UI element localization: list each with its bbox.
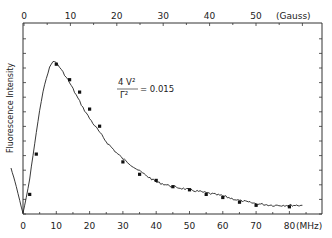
data-point <box>88 108 91 111</box>
data-point <box>138 173 141 176</box>
data-point <box>238 201 241 204</box>
top-tick-label: 30 <box>157 11 169 21</box>
top-axis-unit-label: (Gauss) <box>276 11 311 21</box>
x-tick-label: 10 <box>51 221 63 231</box>
top-tick-label: 20 <box>111 11 123 21</box>
axis-tick-labels: 0102030405060708001020304050 <box>20 11 295 231</box>
x-tick-label: 20 <box>84 221 96 231</box>
data-point <box>221 196 224 199</box>
data-point <box>78 91 81 94</box>
svg-text:= 0.015: = 0.015 <box>140 84 174 94</box>
x-axis-unit-label: (MHz) <box>296 221 322 231</box>
svg-text:Γ²: Γ² <box>120 90 128 100</box>
x-tick-label: 40 <box>150 221 162 231</box>
x-tick-label: 60 <box>217 221 229 231</box>
x-tick-label: 0 <box>20 221 26 231</box>
x-tick-label: 80 <box>284 221 296 231</box>
y-axis-label: Fluorescence Intensity <box>6 63 15 153</box>
top-tick-label: 10 <box>65 11 77 21</box>
x-tick-label: 30 <box>117 221 129 231</box>
top-tick-label: 0 <box>21 11 27 21</box>
x-tick-label: 50 <box>184 221 196 231</box>
data-point <box>171 185 174 188</box>
data-point <box>121 160 124 163</box>
data-point <box>98 125 101 128</box>
data-point <box>255 204 258 207</box>
chart: 0102030405060708001020304050 Fluorescenc… <box>0 0 332 238</box>
annotation-formula: 4 V² Γ² = 0.015 <box>117 77 174 100</box>
data-point <box>155 179 158 182</box>
svg-text:4 V²: 4 V² <box>118 77 135 87</box>
x-tick-label: 70 <box>250 221 262 231</box>
data-point <box>205 193 208 196</box>
data-point <box>68 78 71 81</box>
top-tick-label: 50 <box>250 11 262 21</box>
data-point <box>288 205 291 208</box>
data-point <box>35 153 38 156</box>
data-point <box>55 63 58 66</box>
top-tick-label: 40 <box>204 11 216 21</box>
data-point <box>188 188 191 191</box>
data-point <box>28 193 31 196</box>
